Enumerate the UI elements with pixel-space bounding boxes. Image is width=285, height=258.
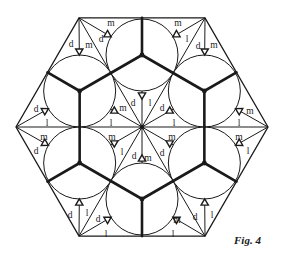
region-label: l [105,229,108,239]
triangle-marker [201,49,208,55]
triangle-marker [41,109,48,115]
region-label: d [132,151,137,161]
region-label: l [149,98,152,108]
region-label: m [168,132,176,142]
region-label: l [172,229,175,239]
triangle-marker [76,49,83,55]
region-label: m [235,132,243,142]
y-hub-dot [202,89,207,94]
triangle-marker [76,199,83,205]
region-label: d [99,34,104,44]
region-label: m [108,132,116,142]
region-label: d [160,148,165,158]
region-label: m [107,18,115,28]
region-label: d [34,104,39,114]
region-label: d [160,103,165,113]
region-label: d [196,41,201,51]
region-label: l [211,210,214,220]
hexagon-tiling-diagram: mdmdmldmdlmdmdldlmlmldmdmlmldldlmdll [0,0,285,258]
region-label: l [121,147,124,157]
region-label: m [246,106,254,116]
region-label: l [86,208,89,218]
region-label: m [40,132,48,142]
y-hub-dot [77,161,82,166]
region-label: m [174,18,182,28]
region-label: m [210,40,218,50]
triangle-marker [173,30,180,36]
region-label: m [85,40,93,50]
triangle-marker [104,30,111,36]
region-label: l [238,118,241,128]
figure-caption: Fig. 4 [234,234,261,246]
region-label: m [144,153,152,163]
region-label: l [46,118,49,128]
region-label: d [131,98,136,108]
center-dot [140,125,144,129]
region-label: d [68,210,73,220]
region-label: m [119,103,127,113]
region-label: d [96,214,101,224]
triangle-marker [104,217,111,223]
region-label: d [193,212,198,222]
triangle-marker [236,109,243,115]
region-label: d [69,39,74,49]
y-hub-dot [202,161,207,166]
y-hub-dot [77,89,82,94]
triangle-marker [138,93,145,99]
region-label: d [34,146,39,156]
region-label: m [173,215,181,225]
region-label: l [186,34,189,44]
region-label: l [173,118,176,128]
y-hub-dot [140,197,145,202]
y-hub-dot [140,53,145,58]
region-label: l [247,146,250,156]
region-label: l [110,118,113,128]
triangle-marker [201,199,208,205]
